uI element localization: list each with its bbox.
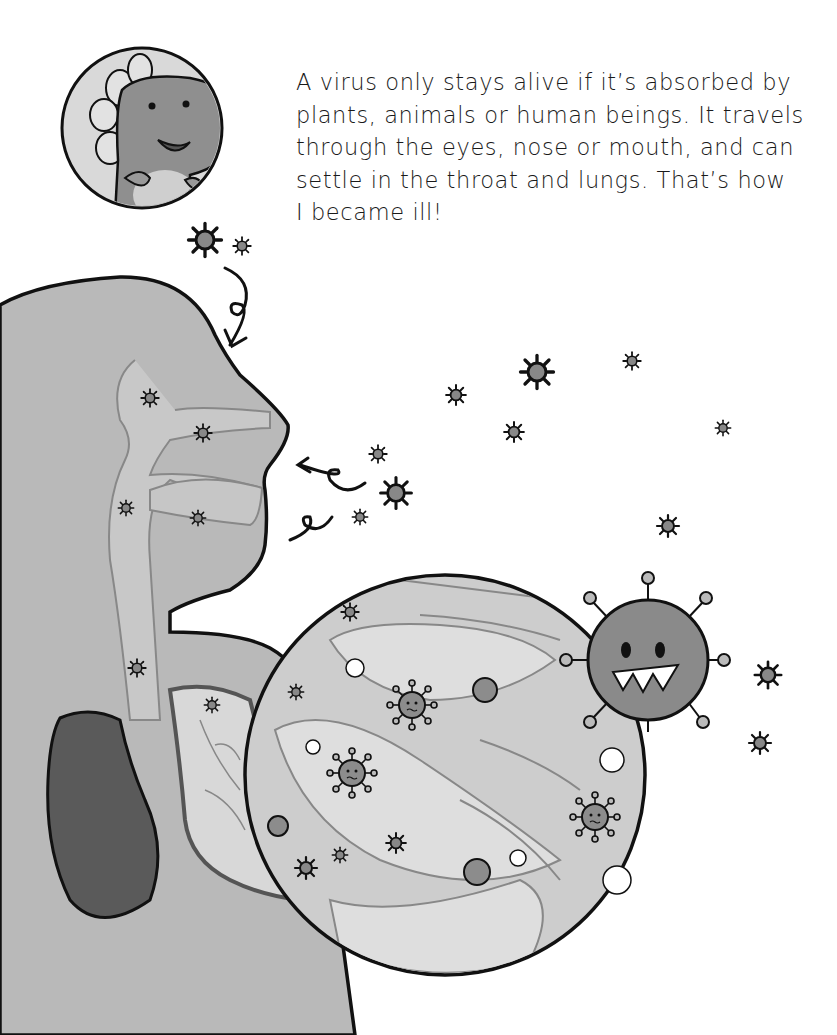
arrow-to-head-icon <box>225 268 246 345</box>
arrow-to-nose-icon <box>300 465 365 490</box>
dinosaur-portrait <box>62 48 241 220</box>
narration-line: plants, animals or human beings. It trav… <box>296 99 816 132</box>
narration-text: A virus only stays alive if it’s absorbe… <box>296 66 816 229</box>
book-page: A virus only stays alive if it’s absorbe… <box>0 0 837 1035</box>
magnified-lung-view <box>245 575 645 975</box>
arrow-to-mouth-icon <box>290 517 332 540</box>
narration-line: I became ill! <box>296 196 816 229</box>
narration-line: settle in the throat and lungs. That’s h… <box>296 164 816 197</box>
narration-line: through the eyes, nose or mouth, and can <box>296 131 816 164</box>
narration-line: A virus only stays alive if it’s absorbe… <box>296 66 816 99</box>
